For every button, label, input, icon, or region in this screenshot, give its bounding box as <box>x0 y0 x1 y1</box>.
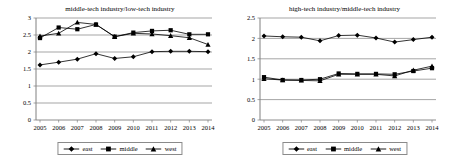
x-axis-tick-label: 2008 <box>314 124 327 131</box>
plot-area-left: 00.511.522.53200520062007200820092010201… <box>36 18 212 120</box>
x-axis-tick-label: 2011 <box>146 124 159 131</box>
x-axis-tick-label: 2007 <box>71 124 85 131</box>
x-axis-tick-label: 2014 <box>426 124 440 131</box>
legend-item-west: west <box>146 145 177 153</box>
chart-panel-left: middle-tech industry/low-tech industry 0… <box>0 0 226 163</box>
y-axis-tick-label: 0.5 <box>247 96 255 103</box>
chart-svg-left: 00.511.522.53200520062007200820092010201… <box>36 18 212 120</box>
figure-container: middle-tech industry/low-tech industry 0… <box>0 0 453 163</box>
y-axis-tick-label: 2 <box>28 48 31 55</box>
series-line <box>40 24 208 38</box>
x-axis-tick-label: 2010 <box>351 124 364 131</box>
diamond-data-point <box>336 33 341 38</box>
diamond-data-point <box>75 57 80 62</box>
x-axis-tick-label: 2005 <box>258 124 271 131</box>
x-axis-tick-label: 2013 <box>183 124 196 131</box>
chart-svg-right: 00.511.522.52005200620072008200920102011… <box>260 18 436 120</box>
diamond-data-point <box>411 37 416 42</box>
diamond-data-point <box>392 40 397 45</box>
diamond-data-point <box>430 35 435 40</box>
triangle-marker-icon <box>370 145 386 153</box>
diamond-data-point <box>318 38 323 43</box>
y-axis-tick-label: 0.5 <box>23 99 31 106</box>
x-axis-tick-label: 2014 <box>202 124 216 131</box>
legend-item-middle: middle <box>325 145 362 153</box>
legend-item-east: east <box>288 145 317 153</box>
x-axis-tick-label: 2012 <box>388 124 401 131</box>
y-axis-tick-label: 2.5 <box>247 14 255 21</box>
diamond-data-point <box>131 54 136 59</box>
chart-panel-right: high-tech industry/middle-tech industry … <box>226 0 453 163</box>
diamond-data-point <box>299 35 304 40</box>
x-axis-tick-label: 2010 <box>127 124 140 131</box>
legend-label-middle: middle <box>343 145 362 152</box>
diamond-data-point <box>374 35 379 40</box>
x-axis-tick-label: 2009 <box>332 124 345 131</box>
x-axis-tick-label: 2007 <box>295 124 309 131</box>
x-axis-tick-label: 2006 <box>52 124 66 131</box>
x-axis-tick-label: 2009 <box>108 124 121 131</box>
y-axis-tick-label: 0 <box>252 116 255 123</box>
legend-right: east middle west <box>282 142 407 155</box>
y-axis-tick-label: 1.5 <box>23 65 31 72</box>
chart-title-left: middle-tech industry/low-tech industry <box>0 5 226 13</box>
legend-label-east: east <box>81 145 92 152</box>
series-line <box>40 51 208 65</box>
diamond-marker-icon <box>63 145 79 153</box>
legend-label-west: west <box>164 145 177 152</box>
x-axis-tick-label: 2012 <box>164 124 177 131</box>
plot-area-right: 00.511.522.52005200620072008200920102011… <box>260 18 436 120</box>
legend-item-east: east <box>63 145 92 153</box>
square-marker-icon <box>101 145 117 153</box>
y-axis-tick-label: 2.5 <box>23 31 31 38</box>
legend-label-middle: middle <box>119 145 138 152</box>
y-axis-tick-label: 2 <box>252 35 255 42</box>
diamond-data-point <box>56 60 61 65</box>
square-data-point <box>57 25 61 29</box>
chart-title-right: high-tech industry/middle-tech industry <box>226 5 453 13</box>
square-data-point <box>75 27 79 31</box>
x-axis-tick-label: 2006 <box>276 124 290 131</box>
legend-left: east middle west <box>57 142 182 155</box>
triangle-data-point <box>205 42 210 47</box>
square-data-point <box>206 32 210 36</box>
square-marker-icon <box>325 145 341 153</box>
x-axis-tick-label: 2013 <box>407 124 420 131</box>
diamond-data-point <box>206 49 211 54</box>
series-east <box>38 49 211 68</box>
legend-label-west: west <box>388 145 401 152</box>
diamond-data-point <box>38 62 43 67</box>
y-axis-tick-label: 1.5 <box>247 55 255 62</box>
y-axis-tick-label: 1 <box>252 76 255 83</box>
legend-label-east: east <box>306 145 317 152</box>
series-west <box>261 64 434 83</box>
x-axis-tick-label: 2011 <box>370 124 383 131</box>
triangle-data-point <box>429 64 434 69</box>
y-axis-tick-label: 3 <box>28 14 31 21</box>
y-axis-tick-label: 0 <box>28 116 31 123</box>
diamond-data-point <box>150 49 155 54</box>
diamond-data-point <box>112 56 117 61</box>
legend-item-west: west <box>370 145 401 153</box>
triangle-marker-icon <box>146 145 162 153</box>
diamond-data-point <box>262 33 267 38</box>
triangle-data-point <box>56 31 61 36</box>
x-axis-tick-label: 2008 <box>90 124 103 131</box>
series-line <box>40 22 208 44</box>
diamond-data-point <box>355 33 360 38</box>
diamond-data-point <box>187 49 192 54</box>
legend-item-middle: middle <box>101 145 138 153</box>
diamond-marker-icon <box>288 145 304 153</box>
x-axis-tick-label: 2005 <box>34 124 47 131</box>
diamond-data-point <box>168 49 173 54</box>
square-data-point <box>169 28 173 32</box>
y-axis-tick-label: 1 <box>28 82 31 89</box>
